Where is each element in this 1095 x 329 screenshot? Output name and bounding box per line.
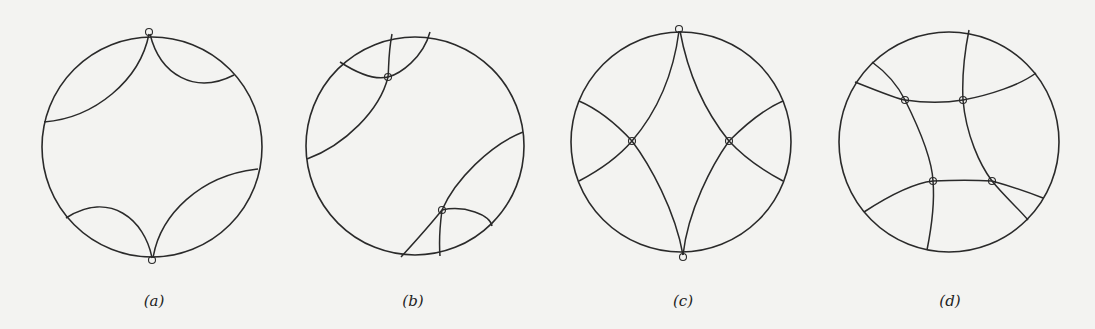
geodesic: [963, 30, 1028, 220]
panel-b: [306, 32, 524, 257]
geodesic: [440, 210, 442, 256]
caption-b: (b): [402, 292, 423, 310]
geodesic: [307, 34, 392, 159]
disk-boundary: [42, 37, 262, 257]
caption-c: (c): [673, 292, 693, 310]
geodesic: [401, 132, 523, 257]
panel-d: [839, 30, 1059, 252]
figure: (a) (b) (c) (d): [0, 0, 1095, 329]
geodesic: [153, 169, 258, 258]
geodesic: [680, 31, 729, 255]
geodesic: [872, 62, 933, 250]
geodesic: [442, 209, 492, 226]
geodesic: [855, 73, 1036, 102]
geodesic: [729, 101, 783, 181]
geodesic: [340, 32, 430, 78]
geodesic: [150, 34, 234, 83]
diagram-canvas: [0, 0, 1095, 329]
caption-d: (d): [939, 292, 960, 310]
disk-boundary: [839, 32, 1059, 252]
geodesic: [579, 101, 632, 181]
disk-boundary: [571, 32, 791, 252]
geodesic: [44, 34, 149, 122]
geodesic: [632, 31, 683, 255]
panel-a: [42, 29, 262, 264]
caption-a: (a): [144, 292, 165, 310]
panel-c: [571, 26, 791, 261]
geodesic: [66, 207, 152, 258]
